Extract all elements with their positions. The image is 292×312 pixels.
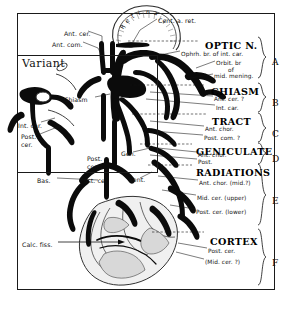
section-e-sublabel: Post. cer. (lower) xyxy=(196,209,246,215)
occipital-lobe xyxy=(79,196,177,285)
section-heading-a: OPTIC N. xyxy=(205,40,257,51)
anatomy-label-post-com-m2: com. xyxy=(87,163,103,170)
variant-title: Variant xyxy=(22,57,65,70)
anatomy-label-vent: Vent. xyxy=(129,176,145,183)
section-d-sublabel: Ant. chor. xyxy=(198,152,227,158)
anatomy-label-int-car-l: Int. car. xyxy=(18,122,42,129)
section-braces xyxy=(258,37,266,285)
section-b-sublabel: Int. car. xyxy=(216,105,239,111)
section-f-sublabel: (Mid. cer. ?) xyxy=(205,259,240,265)
section-letter-c: C xyxy=(272,129,279,139)
section-letter-b: B xyxy=(272,98,279,108)
section-d-sublabel: Post. xyxy=(198,159,212,165)
anatomy-label-ant-com: Ant. com. xyxy=(52,41,83,48)
section-a-sublabel: Orbit. br xyxy=(216,60,241,66)
section-letter-f: F xyxy=(272,258,278,268)
retina-letter: n xyxy=(146,8,150,15)
section-letter-e: E xyxy=(272,196,279,206)
anatomy-label-post-cer-m: Post. cer. xyxy=(80,177,109,184)
section-c-sublabel: Post. com. ? xyxy=(204,135,240,141)
anatomy-label-bas: Bas. xyxy=(37,177,51,184)
anatomy-label-cent-a-ret: Cent. a. ret. xyxy=(158,17,196,24)
anatomy-label-post-cer-l2: cer. xyxy=(21,141,33,148)
anatomy-label-chiasm-mid: Chiasm xyxy=(64,96,88,103)
anatomy-label-ant-cer: Ant. cer. xyxy=(64,30,91,37)
anatomy-label-post-com-m1: Post. xyxy=(87,155,102,162)
section-c-sublabel: Ant. chor. xyxy=(205,126,234,132)
section-e-sublabel: Ant. chor. (mid.?) xyxy=(199,180,251,186)
anatomy-label-gen: Gen. xyxy=(121,150,136,157)
section-a-sublabel: Ophrh. br. of int. car. xyxy=(181,51,243,57)
section-e-sublabel: Mid. cer. (upper) xyxy=(197,195,246,201)
section-letter-d: D xyxy=(272,154,279,164)
section-letter-a: A xyxy=(272,57,279,67)
variant-inset-vessels xyxy=(8,62,76,176)
section-heading-f: CORTEX xyxy=(210,236,258,247)
section-heading-e: RADIATIONS xyxy=(196,167,270,178)
section-f-sublabel: Post. cer. xyxy=(208,248,235,254)
anatomy-label-calc-fiss: Calc. fiss. xyxy=(22,241,53,248)
section-b-sublabel: Ant. cer. ? xyxy=(214,96,244,102)
section-a-sublabel: mid. mening. xyxy=(214,73,254,79)
anatomy-label-post-cer-l1: Post. xyxy=(21,133,36,140)
anatomical-figure: Variant RetinaCent. a. ret.Ant. cer.Ant.… xyxy=(0,0,292,312)
